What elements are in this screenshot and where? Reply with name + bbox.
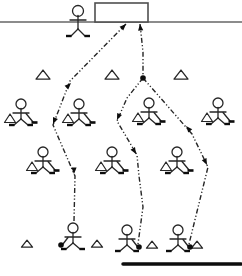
puck-icon — [187, 244, 193, 250]
direction-arrowhead-icon — [202, 158, 210, 166]
cone-icon — [192, 241, 203, 248]
goal — [95, 3, 148, 22]
cone-icon — [96, 162, 107, 171]
cone-icon — [63, 114, 74, 123]
cone-icon — [36, 70, 50, 79]
cone-icon — [92, 240, 103, 247]
cone-icon — [27, 162, 38, 171]
cone-icon — [161, 162, 172, 171]
cone-icon — [174, 70, 188, 79]
direction-arrowhead-icon — [71, 168, 76, 175]
player-figure — [202, 98, 235, 125]
cone-icon — [22, 240, 33, 247]
puck-icon — [58, 242, 64, 248]
shooter-figure — [58, 223, 85, 250]
cone-icon — [133, 113, 144, 122]
player-figure — [133, 98, 166, 125]
direction-arrowhead-icon — [137, 24, 143, 31]
player-figure — [27, 147, 60, 174]
direction-arrowhead-icon — [65, 81, 73, 89]
player-figure — [161, 147, 194, 174]
shooter-figure — [166, 225, 193, 252]
player-figure — [96, 147, 129, 174]
hockey-drill-diagram — [0, 0, 242, 276]
direction-arrowhead-icon — [120, 22, 128, 30]
player-figure — [63, 99, 96, 126]
cone-icon — [105, 70, 119, 79]
direction-arrowhead-icon — [130, 147, 138, 155]
puck-icon — [136, 244, 142, 250]
path-junction-dot — [140, 75, 146, 81]
cone-icon — [147, 241, 158, 248]
cone-icon — [202, 113, 213, 122]
shooter-figure — [115, 225, 142, 252]
direction-arrowhead-icon — [115, 113, 122, 121]
drill-diagram-page — [0, 0, 242, 276]
player-figure — [5, 99, 38, 126]
center-stem — [140, 24, 143, 78]
cone-icon — [5, 114, 16, 123]
middle-branch — [117, 78, 143, 244]
